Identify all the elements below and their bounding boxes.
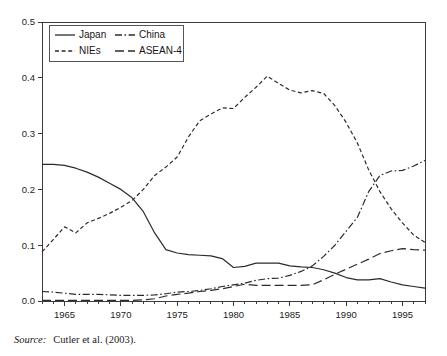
x-tick-label: 1990: [336, 309, 357, 320]
legend-china-label: China: [139, 29, 166, 40]
y-tick-label: 0.5: [22, 16, 35, 27]
legend-japan-label: Japan: [79, 29, 106, 40]
source-citation: Cutler et al. (2003).: [53, 334, 136, 345]
source-note: Source:Cutler et al. (2003).: [14, 334, 136, 345]
y-tick-label: 0.0: [22, 295, 35, 306]
x-tick-label: 1975: [167, 309, 188, 320]
x-tick-label: 1985: [279, 309, 300, 320]
y-tick-label: 0.4: [22, 72, 35, 83]
line-chart: 0.00.10.20.30.40.51965197019751980198519…: [0, 0, 447, 356]
y-tick-label: 0.1: [22, 240, 35, 251]
x-tick-label: 1980: [223, 309, 244, 320]
series-line-nies: [42, 76, 425, 252]
x-tick-label: 1970: [110, 309, 131, 320]
y-tick-label: 0.3: [22, 128, 35, 139]
legend-asean4-label: ASEAN-4: [139, 45, 182, 56]
legend-nies-label: NIEs: [79, 45, 101, 56]
source-label: Source:: [14, 334, 46, 345]
series-line-japan: [42, 164, 425, 288]
series-line-asean-4: [42, 249, 425, 301]
x-tick-label: 1965: [54, 309, 75, 320]
series-line-china: [42, 160, 425, 295]
figure-root: 0.00.10.20.30.40.51965197019751980198519…: [0, 0, 447, 356]
y-tick-label: 0.2: [22, 184, 35, 195]
x-tick-label: 1995: [392, 309, 413, 320]
